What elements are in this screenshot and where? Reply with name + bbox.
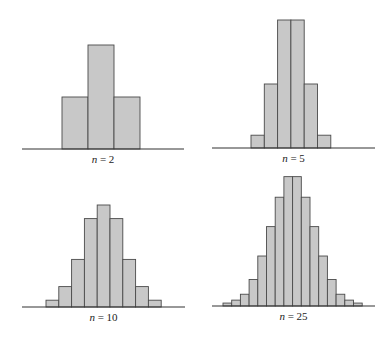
histogram-n25-label: n = 25	[234, 310, 354, 322]
histogram-n25-plot	[0, 0, 390, 338]
histogram-bar	[310, 227, 319, 306]
histogram-bar	[240, 294, 249, 306]
histogram-bar	[284, 177, 293, 306]
histogram-bar	[319, 256, 328, 306]
histogram-bar	[345, 300, 354, 306]
histogram-bar	[301, 197, 310, 306]
histogram-bar	[258, 256, 267, 306]
histogram-bar	[275, 197, 284, 306]
histogram-bar	[336, 294, 345, 306]
histogram-bar	[327, 280, 336, 306]
histogram-n25: n = 25	[0, 0, 390, 338]
histogram-bar	[267, 227, 276, 306]
histogram-bar	[293, 177, 302, 306]
histogram-bar	[249, 280, 258, 306]
histogram-bar	[232, 300, 241, 306]
